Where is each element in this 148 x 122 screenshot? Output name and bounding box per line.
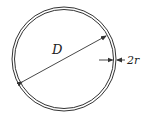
ring-diagram: D 2r [0, 0, 148, 122]
thickness-label: 2r [126, 54, 140, 67]
diameter-arrow [22, 36, 106, 82]
diameter-label: D [51, 42, 63, 57]
